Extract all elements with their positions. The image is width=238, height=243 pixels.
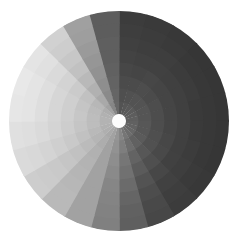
figure-root [0,0,238,243]
polar-heatmap-chart [0,0,238,243]
center-hub [112,114,126,128]
